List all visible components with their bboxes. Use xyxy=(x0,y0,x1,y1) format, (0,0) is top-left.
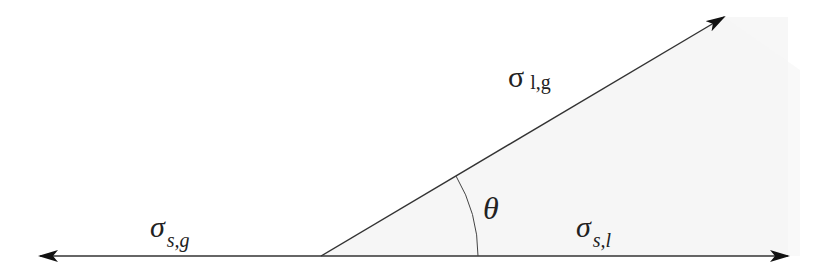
sigma-sg-subscript: s,g xyxy=(167,229,190,251)
sigma-lg-symbol: σ xyxy=(508,60,524,93)
sigma-sl-symbol: σ xyxy=(576,210,591,243)
sigma-sg-label: σs,g xyxy=(150,212,190,250)
diagram-canvas xyxy=(0,0,825,276)
sigma-sg-symbol: σ xyxy=(150,210,165,243)
sigma-lg-subscript: l,g xyxy=(530,71,551,93)
sigma-lg-label: σl,g xyxy=(508,62,551,92)
liquid-wedge-inner xyxy=(321,17,800,256)
sigma-sl-label: σs,l xyxy=(576,212,611,250)
theta-label: θ xyxy=(483,192,499,224)
contact-angle-diagram: σl,g σs,g σs,l θ xyxy=(0,0,825,276)
sigma-sl-subscript: s,l xyxy=(593,229,611,251)
